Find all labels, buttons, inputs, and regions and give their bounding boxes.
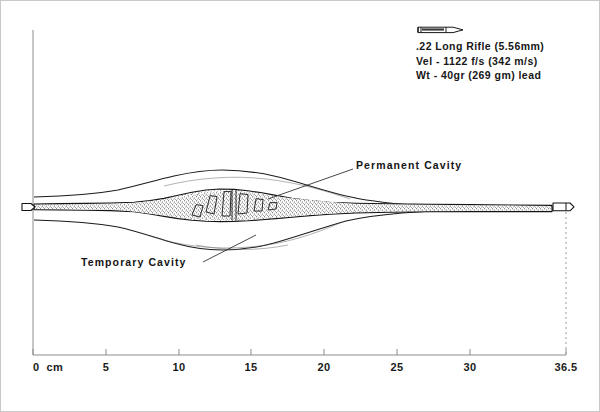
axis-tick-label-15: 15 (244, 361, 257, 373)
axis-tick-label-10: 10 (172, 361, 185, 373)
temporary-cavity-label: Temporary Cavity (81, 256, 187, 268)
spec-line-caliber: .22 Long Rifle (5.56mm) (416, 39, 544, 54)
axis-tick-label-36-5: 36.5 (554, 361, 577, 373)
axis-tick-label-20: 20 (317, 361, 330, 373)
axis-tick-label-0: 0 cm (33, 361, 63, 373)
permanent-cavity-band (34, 189, 552, 222)
cartridge-spec-block: .22 Long Rifle (5.56mm) Vel - 1122 f/s (… (416, 39, 544, 83)
spec-line-weight: Wt - 40gr (269 gm) lead (416, 68, 544, 83)
cartridge-icon (416, 22, 470, 38)
axis-tick-label-5: 5 (103, 361, 110, 373)
permanent-cavity-label: Permanent Cavity (356, 159, 462, 171)
spec-line-velocity: Vel - 1122 f/s (342 m/s) (416, 54, 544, 69)
axis-tick-label-30: 30 (463, 361, 476, 373)
axis-tick-label-25: 25 (390, 361, 403, 373)
bullet-exit-icon (553, 203, 574, 211)
axis-ticks (33, 349, 566, 355)
